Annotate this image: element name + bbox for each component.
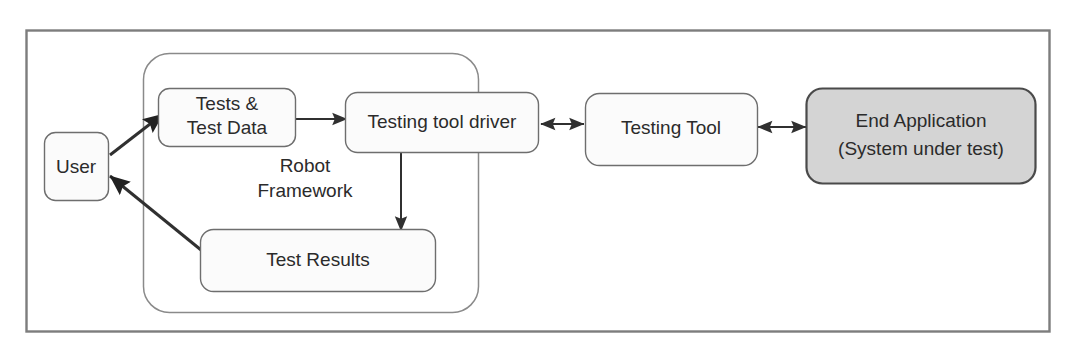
robot-framework-group-label: Robot Framework	[257, 155, 353, 201]
group-label-line-2: Framework	[257, 180, 353, 201]
node-test-results-label: Test Results	[266, 249, 369, 270]
connector-user-to-tests	[110, 114, 163, 155]
node-tests-and-test-data-label-line-2: Test Data	[187, 117, 268, 138]
diagram-canvas: Robot Framework User Tests & Test Data T…	[0, 0, 1071, 344]
node-user[interactable]: User	[45, 133, 109, 201]
node-end-application-label-line-2: (System under test)	[838, 138, 1004, 159]
node-testing-tool-label: Testing Tool	[621, 117, 721, 138]
node-user-label: User	[56, 156, 97, 177]
group-label-line-1: Robot	[280, 155, 331, 176]
node-tests-and-test-data[interactable]: Tests & Test Data	[159, 89, 296, 147]
node-test-results[interactable]: Test Results	[201, 230, 436, 292]
node-testing-tool[interactable]: Testing Tool	[586, 94, 758, 166]
node-end-application[interactable]: End Application (System under test)	[807, 89, 1036, 184]
node-tests-and-test-data-label-line-1: Tests &	[196, 93, 259, 114]
robot-framework-architecture-diagram: Robot Framework User Tests & Test Data T…	[0, 0, 1071, 344]
node-testing-tool-driver[interactable]: Testing tool driver	[346, 93, 539, 153]
connector-test-results-to-user	[110, 176, 206, 254]
node-testing-tool-driver-label: Testing tool driver	[368, 111, 518, 132]
node-end-application-rect[interactable]	[807, 89, 1036, 184]
node-end-application-label-line-1: End Application	[856, 110, 987, 131]
